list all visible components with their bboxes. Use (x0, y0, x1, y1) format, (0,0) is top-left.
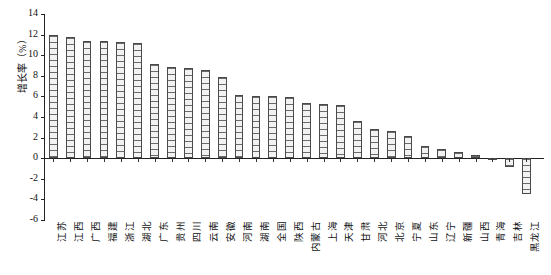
x-axis-category-label: 内蒙古 (311, 221, 321, 275)
x-axis-category-label: 安徽 (226, 221, 236, 275)
bar (100, 41, 109, 158)
x-axis-category-label: 新疆 (463, 221, 473, 275)
x-axis-tick (425, 158, 426, 162)
x-axis-category-label: 全国 (277, 221, 287, 275)
bar (133, 43, 142, 158)
x-axis-category-label: 宁夏 (412, 221, 422, 275)
x-axis-tick (155, 158, 156, 162)
x-axis-tick (138, 158, 139, 162)
x-axis-line (44, 158, 544, 159)
x-axis-category-label: 福建 (108, 221, 118, 275)
bar (83, 41, 92, 158)
x-axis-tick (509, 158, 510, 162)
x-axis-category-label: 青海 (496, 221, 506, 275)
x-axis-category-label: 江苏 (57, 221, 67, 275)
x-axis-tick (121, 158, 122, 162)
x-axis-category-label: 河南 (243, 221, 253, 275)
bar (522, 158, 531, 194)
y-axis-tick-label: 4 (12, 110, 38, 122)
x-axis-tick (188, 158, 189, 162)
y-axis-tick-label: -2 (12, 172, 38, 184)
x-axis-tick (357, 158, 358, 162)
x-axis-tick (340, 158, 341, 162)
bar (319, 104, 328, 159)
bar-chart: 增长率（%） 14121086420-2-4-6 江苏江西广西福建浙江湖北广东贵… (0, 0, 551, 275)
y-axis-tick (41, 14, 45, 15)
x-axis-tick (408, 158, 409, 162)
x-axis-tick (526, 158, 527, 162)
x-axis-tick (53, 158, 54, 162)
x-axis-tick (87, 158, 88, 162)
bar (387, 131, 396, 158)
x-axis-category-label: 广西 (91, 221, 101, 275)
x-axis-labels: 江苏江西广西福建浙江湖北广东贵州四川云南安徽河南湖南全国陕西内蒙古上海天津甘肃河… (44, 221, 544, 275)
y-axis-tick (41, 138, 45, 139)
x-axis-category-label: 贵州 (176, 221, 186, 275)
x-axis-category-label: 甘肃 (361, 221, 371, 275)
x-axis-category-label: 上海 (328, 221, 338, 275)
bar (404, 136, 413, 159)
x-axis-category-label: 河北 (378, 221, 388, 275)
y-axis-tick (41, 117, 45, 118)
bar (184, 68, 193, 159)
bar (353, 121, 362, 158)
bar (336, 105, 345, 159)
y-axis-tick-label: 14 (12, 7, 38, 19)
y-axis-tick-label: 6 (12, 89, 38, 101)
bar (150, 64, 159, 158)
x-axis-tick (172, 158, 173, 162)
x-axis-tick (391, 158, 392, 162)
bar (437, 149, 446, 158)
x-axis-category-label: 湖北 (142, 221, 152, 275)
x-axis-category-label: 浙江 (125, 221, 135, 275)
x-axis-tick (324, 158, 325, 162)
y-axis-tick-label: 8 (12, 69, 38, 81)
bar (218, 77, 227, 158)
bar (268, 96, 277, 158)
y-axis-tick-label: 12 (12, 28, 38, 40)
x-axis-tick (459, 158, 460, 162)
bar (49, 35, 58, 159)
x-axis-category-label: 湖南 (260, 221, 270, 275)
x-axis-tick (476, 158, 477, 162)
x-axis-tick (104, 158, 105, 162)
y-axis-tick (41, 179, 45, 180)
plot-area: 14121086420-2-4-6 (44, 14, 544, 220)
x-axis-tick (273, 158, 274, 162)
x-axis-category-label: 山西 (480, 221, 490, 275)
bar (116, 42, 125, 158)
y-axis-tick (41, 158, 45, 159)
y-axis-tick-label: -6 (12, 213, 38, 225)
x-axis-category-label: 北京 (395, 221, 405, 275)
x-axis-tick (222, 158, 223, 162)
x-axis-category-label: 山东 (429, 221, 439, 275)
x-axis-tick (256, 158, 257, 162)
x-axis-category-label: 四川 (192, 221, 202, 275)
bar (66, 37, 75, 159)
x-axis-tick (205, 158, 206, 162)
x-axis-tick (70, 158, 71, 162)
bar (302, 103, 311, 159)
y-axis-tick-label: 0 (12, 151, 38, 163)
bar (285, 97, 294, 158)
y-axis-tick (41, 96, 45, 97)
bar (235, 95, 244, 158)
bar (201, 70, 210, 159)
y-axis-tick-label: 10 (12, 48, 38, 60)
bar (252, 96, 261, 158)
x-axis-category-label: 天津 (344, 221, 354, 275)
x-axis-category-label: 辽宁 (446, 221, 456, 275)
x-axis-tick (239, 158, 240, 162)
y-axis-tick (41, 199, 45, 200)
x-axis-tick (374, 158, 375, 162)
x-axis-category-label: 黑龙江 (530, 221, 540, 275)
bar (167, 67, 176, 159)
x-axis-category-label: 广东 (159, 221, 169, 275)
x-axis-tick (307, 158, 308, 162)
x-axis-tick (492, 158, 493, 162)
y-axis-tick-label: -4 (12, 192, 38, 204)
x-axis-category-label: 吉林 (513, 221, 523, 275)
y-axis-tick (41, 76, 45, 77)
y-axis-tick-label: 2 (12, 131, 38, 143)
x-axis-category-label: 云南 (209, 221, 219, 275)
